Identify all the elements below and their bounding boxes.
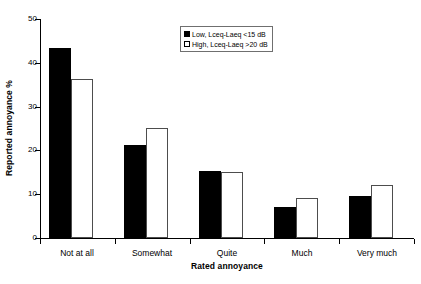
- y-tick-label: 10: [17, 188, 37, 199]
- x-category-label: Quite: [217, 247, 237, 259]
- x-tick-mark: [414, 239, 415, 244]
- y-tick-label: 50: [17, 13, 37, 24]
- y-tick-label: 40: [17, 57, 37, 68]
- legend: Low, Lceq-Laeq <15 dBHigh, Lceq-Laeq >20…: [180, 26, 273, 52]
- legend-label: Low, Lceq-Laeq <15 dB: [192, 30, 266, 39]
- x-tick-mark: [40, 239, 41, 244]
- bar-low: [349, 196, 371, 238]
- y-axis-line: [40, 19, 41, 239]
- x-tick-mark: [264, 239, 265, 244]
- x-axis-title: Rated annoyance: [40, 261, 414, 271]
- y-axis-title: Reported annoyance %: [2, 8, 16, 248]
- bar-high: [71, 79, 93, 238]
- x-tick-mark: [190, 239, 191, 244]
- x-category-label: Much: [292, 247, 313, 259]
- x-category-label: Not at all: [60, 247, 94, 259]
- legend-swatch-icon: [184, 31, 190, 37]
- bar-low: [49, 48, 71, 238]
- x-category-label: Somewhat: [132, 247, 172, 259]
- x-tick-mark: [115, 239, 116, 244]
- x-tick-mark: [339, 239, 340, 244]
- bar-low: [199, 171, 221, 238]
- legend-item: Low, Lceq-Laeq <15 dB: [184, 29, 268, 39]
- bar-low: [124, 145, 146, 238]
- legend-swatch-icon: [184, 41, 190, 47]
- bar-high: [146, 128, 168, 238]
- y-tick-label: 20: [17, 144, 37, 155]
- y-tick-label: 0: [17, 232, 37, 243]
- bar-high: [221, 172, 243, 238]
- bar-high: [371, 185, 393, 238]
- bar-chart: Reported annoyance % 01020304050 Not at …: [0, 0, 421, 284]
- bar-high: [296, 198, 318, 238]
- x-axis-line: [40, 238, 414, 239]
- x-category-label: Very much: [357, 247, 397, 259]
- bar-low: [274, 207, 296, 238]
- y-tick-label: 30: [17, 101, 37, 112]
- plot-area: 01020304050 Not at allSomewhatQuiteMuchV…: [40, 19, 414, 239]
- legend-item: High, Lceq-Laeq >20 dB: [184, 39, 268, 49]
- legend-label: High, Lceq-Laeq >20 dB: [192, 40, 268, 49]
